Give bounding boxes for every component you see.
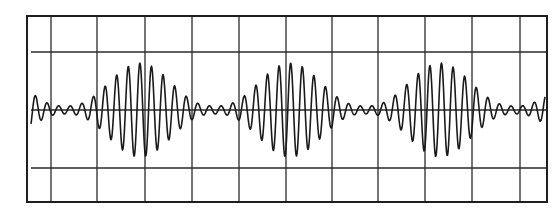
waveform-trace	[31, 63, 545, 156]
graticule-border	[27, 16, 547, 202]
oscilloscope-display	[0, 0, 553, 208]
